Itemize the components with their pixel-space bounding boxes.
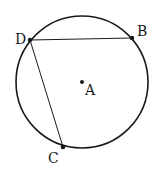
- point-d: [28, 38, 33, 43]
- label-b: B: [137, 23, 147, 39]
- circle-diagram: D B A C: [0, 0, 159, 169]
- point-b: [130, 36, 135, 41]
- point-c: [61, 145, 66, 150]
- label-d: D: [15, 31, 26, 47]
- point-a: [80, 80, 84, 84]
- label-c: C: [48, 150, 59, 166]
- label-a: A: [84, 82, 96, 98]
- segment-db: [30, 38, 132, 40]
- segment-dc: [30, 40, 63, 147]
